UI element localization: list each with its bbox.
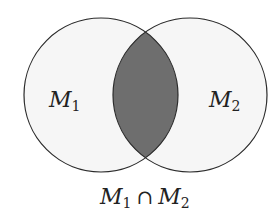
intersection-label: M1∩M2 [99, 184, 190, 211]
venn-diagram: M1 M2 M1∩M2 [0, 0, 279, 222]
